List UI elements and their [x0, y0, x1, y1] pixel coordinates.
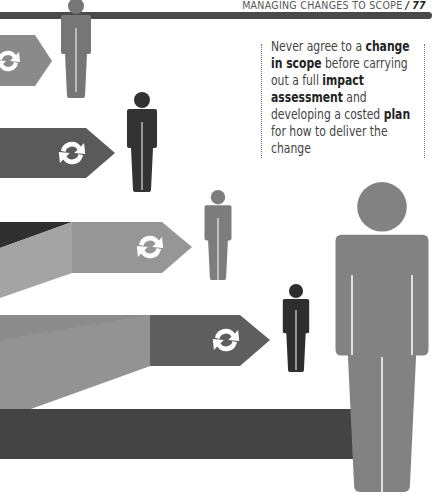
- arrow-band-4: [0, 315, 270, 420]
- quote-border-right: [424, 44, 425, 158]
- quote-border-left: [261, 44, 262, 158]
- arrow-band-5: [0, 409, 362, 459]
- quote-emphasis: plan: [384, 107, 410, 122]
- pull-quote: Never agree to a change in scope before …: [271, 38, 422, 157]
- arrow-band-2: [0, 128, 115, 178]
- quote-text: Never agree to a: [271, 39, 365, 54]
- arrow-band-3: [0, 222, 192, 298]
- arrow-band-1: [0, 35, 52, 86]
- quote-text: for how to deliver the change: [271, 124, 388, 156]
